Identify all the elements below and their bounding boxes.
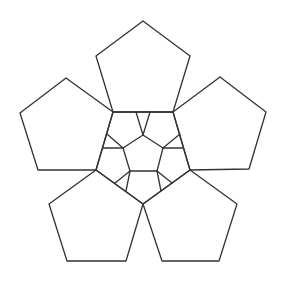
- spoke-line: [107, 134, 123, 148]
- center-pentagon: [123, 135, 163, 171]
- outer-pentagon-lower-right: [143, 170, 237, 261]
- spoke-line: [163, 134, 180, 148]
- outer-pentagon-upper-left: [20, 78, 113, 170]
- spoke-line: [136, 112, 143, 135]
- outer-pentagons: [20, 21, 266, 261]
- outer-pentagon-lower-left: [49, 170, 143, 261]
- inner-spokes: [103, 112, 183, 191]
- ring-pentagon: [96, 112, 190, 204]
- outer-pentagon-upper-right: [173, 77, 266, 170]
- pentagon-pattern-svg: [0, 0, 290, 287]
- pentagon-pattern-figure: [0, 0, 290, 287]
- spoke-line: [143, 112, 150, 135]
- outer-pentagon-top: [96, 21, 190, 112]
